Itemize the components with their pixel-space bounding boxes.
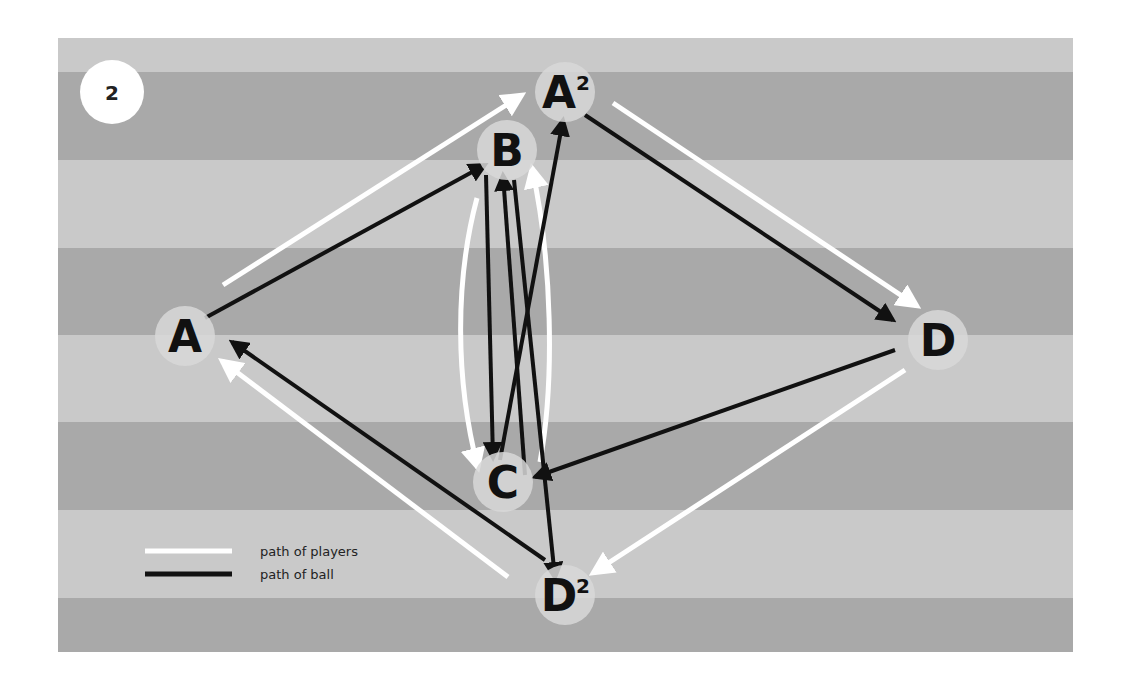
node-label: B bbox=[490, 125, 524, 176]
legend-ball-label: path of ball bbox=[260, 567, 334, 582]
node-label: D bbox=[541, 570, 578, 621]
legend-players-label: path of players bbox=[260, 544, 358, 559]
node-C: C bbox=[473, 452, 533, 512]
node-A2: A2 bbox=[535, 62, 595, 122]
step-number: 2 bbox=[105, 81, 119, 105]
node-label: C bbox=[487, 457, 519, 508]
node-superscript: 2 bbox=[576, 574, 590, 598]
step-badge: 2 bbox=[80, 60, 144, 124]
node-label: A bbox=[542, 67, 576, 118]
node-superscript: 2 bbox=[576, 71, 590, 95]
node-A: A bbox=[155, 306, 215, 366]
node-label: A bbox=[168, 311, 202, 362]
drill-diagram: AA2BCDD2 2 path of players path of ball bbox=[0, 0, 1126, 684]
node-B: B bbox=[477, 120, 537, 180]
node-label: D bbox=[920, 315, 957, 366]
field-stripe-light bbox=[58, 160, 1073, 248]
node-D: D bbox=[908, 310, 968, 370]
node-D2: D2 bbox=[535, 565, 595, 625]
